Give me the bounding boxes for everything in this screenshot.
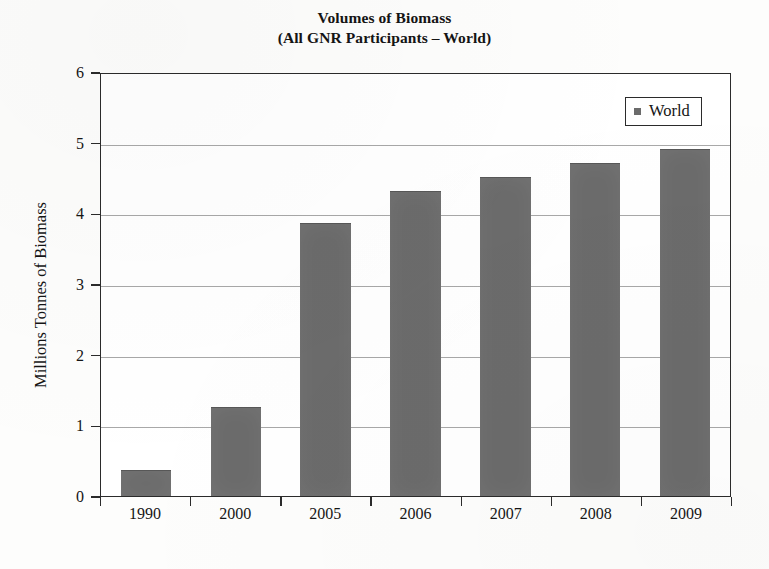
y-tick-1: 1 — [76, 417, 100, 435]
y-tick-label: 0 — [76, 488, 91, 506]
y-tick-5: 5 — [76, 135, 100, 153]
y-tick-mark — [91, 284, 100, 285]
y-tick-label: 4 — [76, 205, 91, 223]
bar-2009[interactable] — [660, 149, 710, 496]
x-axis-label-2007: 2007 — [461, 505, 551, 523]
y-tick-mark — [91, 426, 100, 427]
y-tick-label: 3 — [76, 276, 91, 294]
chart-legend: World — [625, 97, 702, 126]
bar-1990[interactable] — [121, 470, 171, 496]
plot-area — [100, 73, 731, 497]
legend-label-world: World — [649, 103, 690, 120]
y-tick-2: 2 — [76, 347, 100, 365]
x-axis-label-1990: 1990 — [100, 505, 190, 523]
x-tick-mark — [731, 497, 732, 506]
bar-slot-2006 — [371, 74, 461, 496]
y-tick-mark — [91, 496, 100, 497]
y-tick-label: 5 — [76, 135, 91, 153]
bar-2005[interactable] — [300, 223, 350, 496]
x-axis-label-2009: 2009 — [641, 505, 731, 523]
bar-slot-1990 — [101, 74, 191, 496]
bar-slot-2000 — [191, 74, 281, 496]
bar-2008[interactable] — [570, 163, 620, 496]
bar-2006[interactable] — [390, 191, 440, 496]
y-tick-mark — [91, 72, 100, 73]
y-tick-label: 6 — [76, 64, 91, 82]
bar-2007[interactable] — [480, 177, 530, 496]
chart-title: Volumes of Biomass — [0, 8, 769, 28]
y-tick-mark — [91, 214, 100, 215]
x-axis-label-2005: 2005 — [280, 505, 370, 523]
x-axis-label-2008: 2008 — [551, 505, 641, 523]
y-tick-6: 6 — [76, 64, 100, 82]
chart-subtitle: (All GNR Participants – World) — [0, 28, 769, 48]
x-axis-label-2000: 2000 — [190, 505, 280, 523]
chart-figure: Volumes of Biomass (All GNR Participants… — [0, 0, 769, 569]
y-axis-ticks: 0123456 — [0, 73, 100, 497]
bar-slot-2007 — [460, 74, 550, 496]
bar-2000[interactable] — [211, 407, 261, 496]
bar-slot-2008 — [550, 74, 640, 496]
y-tick-mark — [91, 355, 100, 356]
y-tick-label: 1 — [76, 417, 91, 435]
y-tick-mark — [91, 143, 100, 144]
chart-title-block: Volumes of Biomass (All GNR Participants… — [0, 8, 769, 48]
y-tick-4: 4 — [76, 205, 100, 223]
x-axis-label-2006: 2006 — [370, 505, 460, 523]
x-axis-labels: 1990200020052006200720082009 — [100, 505, 731, 523]
y-tick-label: 2 — [76, 347, 91, 365]
bar-slot-2005 — [281, 74, 371, 496]
y-tick-0: 0 — [76, 488, 100, 506]
legend-swatch-icon — [634, 108, 641, 115]
y-tick-3: 3 — [76, 276, 100, 294]
bar-slot-2009 — [640, 74, 730, 496]
bar-series-world — [101, 74, 730, 496]
